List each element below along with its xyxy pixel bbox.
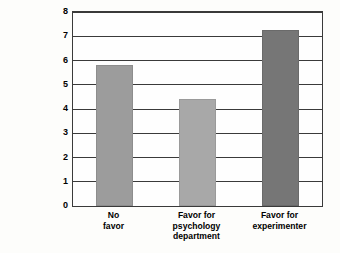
bar [262, 30, 299, 206]
y-axis-title: Rating of experimenter (higher scores me… [4, 0, 52, 48]
x-axis-category-label: Favor forexperimenter [238, 210, 321, 231]
gridline [73, 12, 322, 13]
y-axis-tick-label: 0 [63, 201, 68, 210]
plot-area [72, 11, 323, 207]
x-axis-category-label: Nofavor [72, 210, 155, 231]
x-axis-category-label-line: Favor for [238, 210, 321, 221]
x-axis-category-label-line: No [72, 210, 155, 221]
x-axis-category-label-line: psychology [155, 221, 238, 232]
y-axis-tick-label: 7 [63, 31, 68, 40]
bar [179, 99, 216, 206]
y-axis-tick-label: 1 [63, 176, 68, 185]
y-axis-tick-label: 2 [63, 152, 68, 161]
x-axis-category-label-line: Favor for [155, 210, 238, 221]
bar [96, 65, 133, 206]
y-axis-tick-label: 5 [63, 79, 68, 88]
x-axis-category-labels: NofavorFavor forpsychologydepartmentFavo… [72, 210, 323, 252]
x-axis-category-label-line: favor [72, 221, 155, 232]
bar-chart-figure: Rating of experimenter (higher scores me… [0, 0, 340, 253]
y-axis-tick-label: 8 [63, 7, 68, 16]
y-axis-tick-labels: 012345678 [52, 11, 68, 207]
x-axis-category-label-line: department [155, 231, 238, 242]
y-axis-tick-label: 3 [63, 128, 68, 137]
x-axis-category-label: Favor forpsychologydepartment [155, 210, 238, 242]
y-axis-tick-label: 4 [63, 104, 68, 113]
y-axis-tick-label: 6 [63, 55, 68, 64]
x-axis-category-label-line: experimenter [238, 221, 321, 232]
